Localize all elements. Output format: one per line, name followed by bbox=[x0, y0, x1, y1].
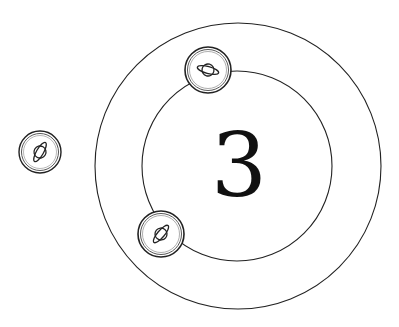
game-board: 3 bbox=[0, 0, 399, 327]
token-left[interactable] bbox=[19, 131, 61, 173]
center-number: 3 bbox=[211, 114, 267, 217]
token-top[interactable] bbox=[185, 47, 231, 93]
token-bottom-left[interactable] bbox=[138, 211, 184, 257]
